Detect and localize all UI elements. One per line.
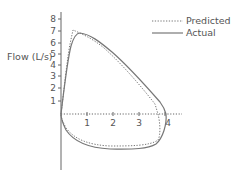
flow-volume-chart: 1 2 3 4 5 6 7 8 Flow (L/s) 1 2 3 4 Predi… <box>0 0 236 184</box>
svg-text:3: 3 <box>136 118 142 128</box>
svg-text:7: 7 <box>50 26 56 36</box>
y-axis-title: Flow (L/s) <box>7 51 53 62</box>
svg-text:1: 1 <box>84 118 90 128</box>
legend: Predicted Actual <box>152 15 231 38</box>
legend-predicted-label: Predicted <box>186 15 231 26</box>
actual-curve <box>61 33 166 149</box>
x-tick-labels: 1 2 3 4 <box>84 118 171 128</box>
svg-text:2: 2 <box>50 83 56 93</box>
svg-text:1: 1 <box>50 96 56 106</box>
svg-text:8: 8 <box>50 14 56 24</box>
svg-text:6: 6 <box>50 38 56 48</box>
svg-text:3: 3 <box>50 71 56 81</box>
predicted-curve <box>61 30 160 146</box>
legend-actual-label: Actual <box>186 27 216 38</box>
svg-text:2: 2 <box>110 118 116 128</box>
